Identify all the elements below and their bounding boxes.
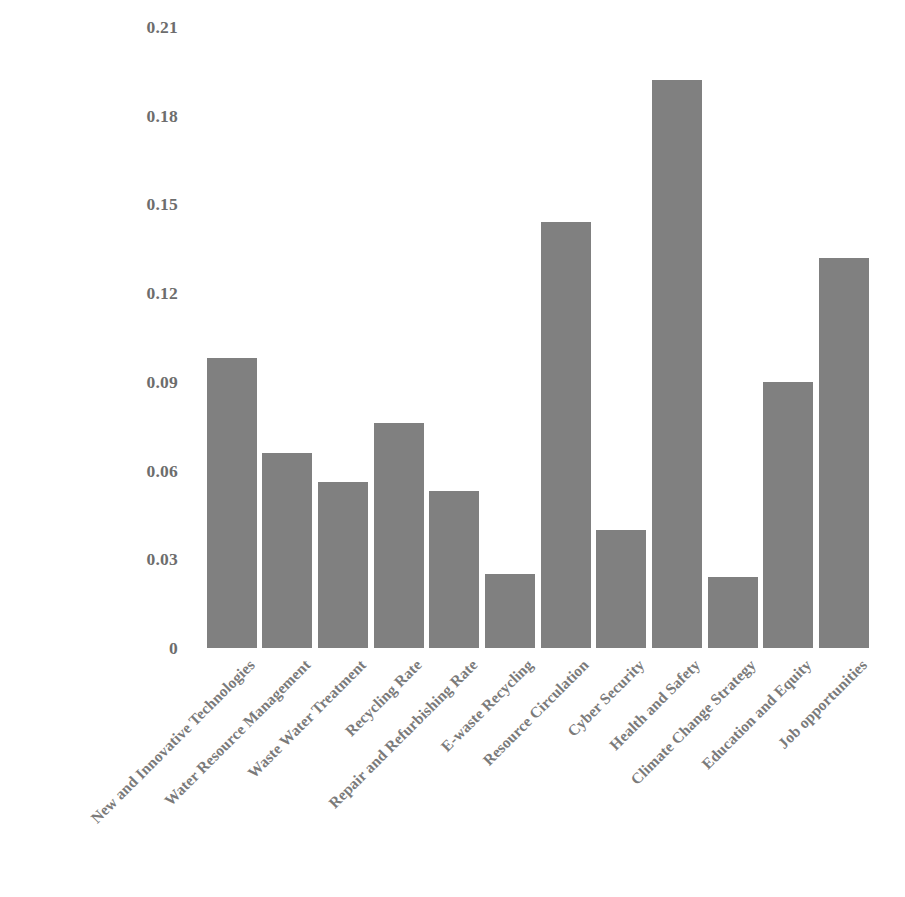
bar[interactable] (819, 258, 869, 648)
bar-slot (482, 18, 538, 648)
bar-slot (538, 18, 594, 648)
bar-slot (761, 18, 817, 648)
bar-slot (816, 18, 872, 648)
y-axis-tick-label: 0.12 (147, 283, 178, 304)
bar[interactable] (374, 423, 424, 648)
y-axis-tick-label: 0.06 (147, 460, 178, 481)
bar-slot (705, 18, 761, 648)
bar[interactable] (207, 358, 257, 648)
bar[interactable] (596, 530, 646, 648)
y-axis-tick-label: 0.09 (147, 371, 178, 392)
bar[interactable] (318, 482, 368, 648)
plot-area (204, 18, 872, 648)
bar[interactable] (708, 577, 758, 648)
bar[interactable] (652, 80, 702, 648)
y-axis-tick-label: 0.03 (147, 549, 178, 570)
x-axis: New and Innovative TechnologiesWater Res… (0, 652, 905, 897)
bar-slot (260, 18, 316, 648)
bar-slot (371, 18, 427, 648)
bar-slot (427, 18, 483, 648)
bar[interactable] (485, 574, 535, 648)
bar-chart: 00.030.060.090.120.150.180.21 New and In… (0, 0, 905, 897)
bar-slot (594, 18, 650, 648)
y-axis: 00.030.060.090.120.150.180.21 (0, 0, 204, 680)
bar-slot (204, 18, 260, 648)
bar[interactable] (763, 382, 813, 648)
bar[interactable] (541, 222, 591, 648)
y-axis-tick-label: 0.18 (147, 105, 178, 126)
bar-slot (315, 18, 371, 648)
bar-slot (649, 18, 705, 648)
bar[interactable] (429, 491, 479, 648)
bar[interactable] (262, 453, 312, 648)
y-axis-tick-label: 0.21 (147, 17, 178, 38)
y-axis-tick-label: 0.15 (147, 194, 178, 215)
